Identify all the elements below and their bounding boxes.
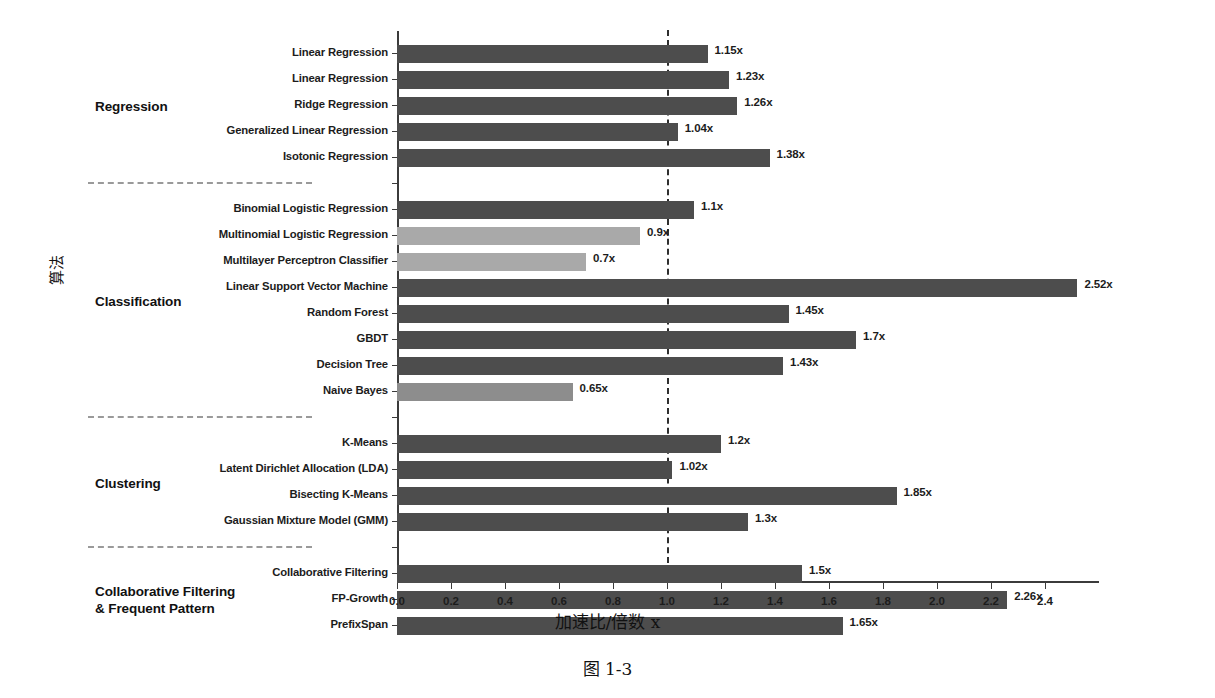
- bar-value-label: 1.04x: [685, 122, 713, 134]
- x-axis-tick: [883, 583, 884, 589]
- bar[interactable]: [397, 123, 678, 141]
- bar-row[interactable]: Collaborative Filtering1.5x: [397, 561, 1099, 587]
- category-label: Naive Bayes: [323, 384, 388, 396]
- bar-row[interactable]: Bisecting K-Means1.85x: [397, 483, 1099, 509]
- x-axis-tick-label: 2.4: [1037, 595, 1053, 607]
- bar[interactable]: [397, 591, 1007, 609]
- x-axis-tick: [937, 583, 938, 589]
- x-axis-tick-label: 0.0: [389, 595, 405, 607]
- category-label: K-Means: [342, 436, 388, 448]
- bar-value-label: 2.52x: [1084, 278, 1112, 290]
- bar-row[interactable]: Isotonic Regression1.38x: [397, 145, 1099, 171]
- x-axis-tick: [829, 583, 830, 589]
- bar-value-label: 1.43x: [790, 356, 818, 368]
- group-label: Classification: [95, 293, 181, 310]
- category-label: Multilayer Perceptron Classifier: [223, 254, 388, 266]
- bar-value-label: 1.85x: [904, 486, 932, 498]
- bar-row[interactable]: GBDT1.7x: [397, 327, 1099, 353]
- bar-row[interactable]: Generalized Linear Regression1.04x: [397, 119, 1099, 145]
- bar-value-label: 1.26x: [744, 96, 772, 108]
- category-label: Linear Regression: [292, 72, 388, 84]
- bar-value-label: 1.1x: [701, 200, 723, 212]
- y-axis-tick: [392, 417, 397, 418]
- category-label: Bisecting K-Means: [289, 488, 388, 500]
- x-axis-tick: [1045, 583, 1046, 589]
- bar-row[interactable]: K-Means1.2x: [397, 431, 1099, 457]
- bar[interactable]: [397, 435, 721, 453]
- x-axis-tick: [397, 583, 398, 589]
- bar-row[interactable]: Multinomial Logistic Regression0.9x: [397, 223, 1099, 249]
- category-label: Linear Regression: [292, 46, 388, 58]
- bar[interactable]: [397, 331, 856, 349]
- category-label: Isotonic Regression: [283, 150, 388, 162]
- category-label: Gaussian Mixture Model (GMM): [224, 514, 388, 526]
- x-axis-tick: [505, 583, 506, 589]
- group-label: Regression: [95, 98, 168, 115]
- x-axis-title: 加速比/倍数 x: [0, 608, 1215, 633]
- bar-value-label: 0.7x: [593, 252, 615, 264]
- separator-dashed-line: [88, 416, 312, 418]
- bar-row[interactable]: Binomial Logistic Regression1.1x: [397, 197, 1099, 223]
- bar[interactable]: [397, 487, 897, 505]
- y-axis-tick: [392, 547, 397, 548]
- bar-row[interactable]: Ridge Regression1.26x: [397, 93, 1099, 119]
- bar-row[interactable]: Linear Regression1.15x: [397, 41, 1099, 67]
- bar-row[interactable]: Linear Support Vector Machine2.52x: [397, 275, 1099, 301]
- bar-row[interactable]: Decision Tree1.43x: [397, 353, 1099, 379]
- group-separator: [397, 171, 1099, 197]
- bar[interactable]: [397, 149, 770, 167]
- x-axis-tick: [613, 583, 614, 589]
- category-label: Collaborative Filtering: [272, 566, 388, 578]
- category-label: GBDT: [357, 332, 388, 344]
- bar[interactable]: [397, 357, 783, 375]
- x-axis-tick-label: 1.6: [821, 595, 837, 607]
- bar-row[interactable]: Latent Dirichlet Allocation (LDA)1.02x: [397, 457, 1099, 483]
- separator-dashed-line: [88, 182, 312, 184]
- category-label: Multinomial Logistic Regression: [219, 228, 388, 240]
- bar-value-label: 1.02x: [679, 460, 707, 472]
- bar[interactable]: [397, 565, 802, 583]
- bar-value-label: 1.5x: [809, 564, 831, 576]
- x-axis-tick: [775, 583, 776, 589]
- x-axis-tick-label: 1.0: [659, 595, 675, 607]
- bar-row[interactable]: Random Forest1.45x: [397, 301, 1099, 327]
- bar-row[interactable]: Multilayer Perceptron Classifier0.7x: [397, 249, 1099, 275]
- x-axis-tick-label: 0.6: [551, 595, 567, 607]
- bar-value-label: 1.23x: [736, 70, 764, 82]
- bar[interactable]: [397, 383, 573, 401]
- category-label: Generalized Linear Regression: [227, 124, 388, 136]
- x-axis-tick-label: 2.0: [929, 595, 945, 607]
- bar-value-label: 1.45x: [796, 304, 824, 316]
- y-axis-title: 算法: [45, 255, 66, 285]
- bar-row[interactable]: Gaussian Mixture Model (GMM)1.3x: [397, 509, 1099, 535]
- bar[interactable]: [397, 461, 672, 479]
- bar-value-label: 1.3x: [755, 512, 777, 524]
- x-axis-tick-label: 1.4: [767, 595, 783, 607]
- x-axis-tick-label: 2.2: [983, 595, 999, 607]
- figure-container: 算法 Linear Regression1.15xLinear Regressi…: [0, 0, 1215, 698]
- bar-value-label: 0.65x: [580, 382, 608, 394]
- x-axis-tick-label: 0.2: [443, 595, 459, 607]
- group-label: Clustering: [95, 475, 161, 492]
- group-separator: [397, 535, 1099, 561]
- x-axis-tick-label: 1.2: [713, 595, 729, 607]
- category-label: Ridge Regression: [294, 98, 388, 110]
- bar[interactable]: [397, 97, 737, 115]
- x-axis-tick-label: 1.8: [875, 595, 891, 607]
- bar[interactable]: [397, 253, 586, 271]
- bar[interactable]: [397, 279, 1077, 297]
- bar[interactable]: [397, 45, 708, 63]
- category-label: FP-Growth: [332, 592, 388, 604]
- bar[interactable]: [397, 513, 748, 531]
- bar-row[interactable]: Linear Regression1.23x: [397, 67, 1099, 93]
- bar-row[interactable]: Naive Bayes0.65x: [397, 379, 1099, 405]
- bar[interactable]: [397, 71, 729, 89]
- x-axis-tick-label: 0.4: [497, 595, 513, 607]
- bar[interactable]: [397, 201, 694, 219]
- x-axis-tick: [451, 583, 452, 589]
- category-label: Binomial Logistic Regression: [233, 202, 388, 214]
- category-label: Decision Tree: [316, 358, 388, 370]
- bar-value-label: 1.2x: [728, 434, 750, 446]
- bar[interactable]: [397, 305, 789, 323]
- bar[interactable]: [397, 227, 640, 245]
